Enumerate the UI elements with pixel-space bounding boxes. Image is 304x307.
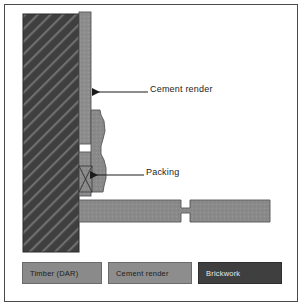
legend-label-cement-render: Cement render [116, 269, 169, 278]
legend-label-brickwork: Brickwork [206, 269, 240, 278]
callout-label-cement-render: Cement render [150, 84, 213, 94]
legend-item-cement-render: Cement render [108, 262, 192, 284]
legend-item-brickwork: Brickwork [198, 262, 282, 284]
packing-block [79, 166, 92, 192]
legend-label-timber: Timber (DAR) [30, 269, 78, 278]
callout-label-packing: Packing [146, 167, 179, 177]
legend: Timber (DAR) Cement render Brickwork [22, 262, 282, 284]
diagram-canvas [0, 0, 304, 307]
timber-moulding [91, 110, 106, 192]
timber-sill [79, 200, 270, 222]
legend-item-timber: Timber (DAR) [22, 262, 102, 284]
diagram-figure: Cement render Packing Timber (DAR) Cemen… [0, 0, 304, 307]
brickwork-wall [23, 14, 79, 252]
